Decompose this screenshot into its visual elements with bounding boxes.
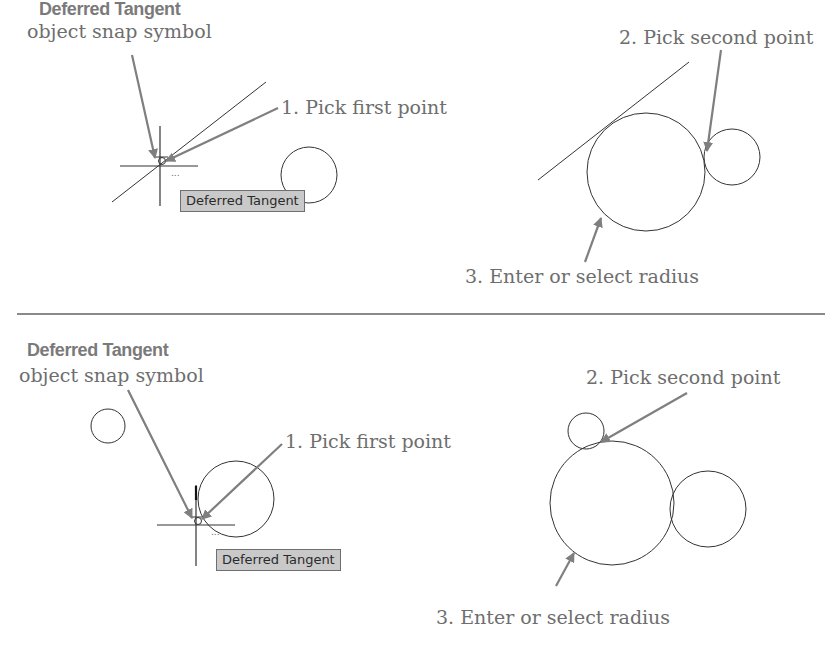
- bottom-second-circle: [670, 471, 746, 547]
- bottom-symbol-subtitle: object snap symbol: [19, 364, 204, 386]
- bottom-step1-label: 1. Pick first point: [285, 430, 451, 452]
- top-symbol-title: Deferred Tangent: [39, 0, 180, 20]
- bottom-symbol-title: Deferred Tangent: [27, 340, 168, 361]
- top-panel-graphics: ...: [112, 50, 760, 262]
- top-step2-label: 2. Pick second point: [619, 26, 813, 48]
- bottom-panel-graphics: ...: [91, 390, 746, 586]
- panel-divider: [17, 313, 825, 315]
- svg-text:...: ...: [171, 168, 180, 178]
- arrow-icon: [556, 553, 574, 586]
- top-second-circle: [704, 129, 760, 185]
- top-step3-label: 3. Enter or select radius: [465, 265, 699, 287]
- top-result-circle: [587, 113, 705, 231]
- arrow-icon: [601, 393, 687, 442]
- top-tangent-line: [538, 62, 689, 180]
- top-deferred-tangent-tooltip: Deferred Tangent: [180, 190, 305, 212]
- tangent-tangent-radius-figure: ... ...: [0, 0, 835, 661]
- bottom-result-circle: [550, 441, 674, 565]
- bottom-deferred-tangent-tooltip: Deferred Tangent: [216, 549, 341, 571]
- top-step1-label: 1. Pick first point: [281, 96, 447, 118]
- bottom-small-circle: [91, 409, 125, 443]
- bottom-step3-label: 3. Enter or select radius: [436, 606, 670, 628]
- arrow-icon: [132, 55, 155, 158]
- bottom-step2-label: 2. Pick second point: [586, 366, 780, 388]
- bottom-small-tangent-circle: [568, 413, 604, 449]
- arrow-icon: [585, 218, 601, 262]
- arrow-icon: [128, 390, 192, 518]
- top-symbol-subtitle: object snap symbol: [27, 20, 212, 42]
- svg-text:...: ...: [211, 527, 220, 537]
- top-line-object: [112, 82, 266, 202]
